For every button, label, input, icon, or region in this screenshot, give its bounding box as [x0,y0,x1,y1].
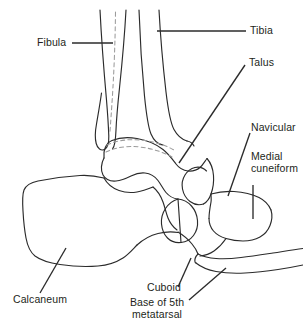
label-talus: Talus [249,57,274,69]
leader-line-navicular [228,133,250,196]
navicular-bone [182,159,214,205]
label-cuboid: Cuboid [147,282,181,294]
label-fibula: Fibula [37,37,66,49]
fibula-bone [95,10,126,150]
label-medial-cuneiform-line2: cuneiform [251,163,298,175]
label-base-fifth-metatarsal-line2: metatarsal [125,309,189,321]
label-tibia: Tibia [250,25,273,37]
label-medial-cuneiform-line1: Medial [251,151,283,163]
label-base-fifth-metatarsal-line1: Base of 5th [125,297,189,309]
label-calcaneum: Calcaneum [13,294,67,306]
calcaneum-bone [23,175,178,266]
anatomy-diagram: Fibula Tibia Talus Navicular Medial cune… [0,0,303,325]
medial-cuneiform-bone [209,191,272,241]
metatarsal-bone [195,239,303,274]
leader-line-talus [179,65,245,163]
leader-line-calcaneum [40,248,66,293]
leader-line-base-fifth-metatarsal [189,268,226,300]
cuboid-bone [161,199,198,254]
label-navicular: Navicular [251,122,296,134]
